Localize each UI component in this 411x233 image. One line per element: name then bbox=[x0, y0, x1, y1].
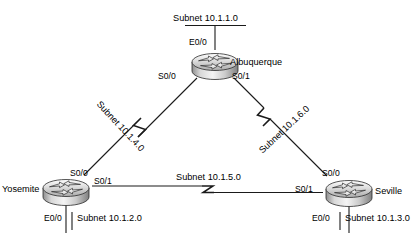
network-diagram: Subnet 10.1.1.0 E0/0 Albuquerque S0/0 S0… bbox=[0, 0, 411, 233]
link-wan-10-1-6-0-bolt bbox=[258, 108, 271, 126]
subnet-label-10-1-2-0: Subnet 10.1.2.0 bbox=[77, 213, 142, 223]
interface-label-albuquerque-s0-0: S0/0 bbox=[158, 71, 176, 81]
router-label-yosemite: Yosemite bbox=[2, 184, 39, 194]
router-seville-symbol bbox=[326, 181, 372, 207]
link-wan-10-1-4-0-upper bbox=[138, 78, 197, 137]
router-label-albuquerque: Albuquerque bbox=[230, 57, 282, 67]
interface-label-albuquerque-e0-0: E0/0 bbox=[189, 37, 207, 47]
interface-label-yosemite-s0-0: S0/0 bbox=[70, 168, 88, 178]
interface-label-yosemite-s0-1: S0/1 bbox=[94, 176, 112, 186]
subnet-label-10-1-1-0: Subnet 10.1.1.0 bbox=[173, 13, 238, 23]
router-yosemite-symbol bbox=[43, 180, 89, 206]
interface-label-albuquerque-s0-1: S0/1 bbox=[232, 71, 250, 81]
interface-label-seville-s0-1: S0/1 bbox=[295, 184, 313, 194]
router-label-seville: Seville bbox=[375, 186, 402, 196]
interface-label-seville-s0-0: S0/0 bbox=[322, 168, 340, 178]
link-wan-10-1-6-0-upper bbox=[234, 78, 264, 108]
interface-label-yosemite-e0-0: E0/0 bbox=[44, 213, 62, 223]
link-wan-10-1-5-0-bolt bbox=[202, 186, 214, 193]
diagram-graphics bbox=[0, 0, 411, 233]
subnet-label-10-1-5-0: Subnet 10.1.5.0 bbox=[176, 172, 241, 182]
interface-label-seville-e0-0: E0/0 bbox=[312, 213, 330, 223]
subnet-label-10-1-3-0: Subnet 10.1.3.0 bbox=[345, 213, 410, 223]
